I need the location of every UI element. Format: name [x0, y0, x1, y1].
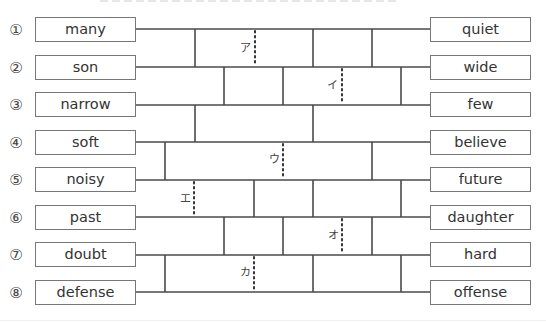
left-word-box: many: [35, 17, 136, 42]
blank-label-e: エ: [180, 193, 191, 205]
left-word-box: noisy: [35, 167, 136, 192]
item-number: ④: [4, 131, 28, 155]
blank-label-ka: カ: [240, 267, 251, 279]
left-word-box: son: [35, 55, 136, 80]
blank-rungs: [194, 31, 342, 291]
left-word-box: defense: [35, 280, 136, 305]
right-word-box: hard: [430, 242, 531, 267]
item-number: ①: [4, 18, 28, 42]
blank-label-u: ウ: [269, 154, 280, 166]
item-number: ⑤: [4, 168, 28, 192]
right-word-box: quiet: [430, 17, 531, 42]
item-number: ⑧: [4, 281, 28, 305]
right-word-box: offense: [430, 280, 531, 305]
item-number: ②: [4, 56, 28, 80]
left-word-box: narrow: [35, 92, 136, 117]
blank-label-a: ア: [240, 43, 251, 55]
left-word-box: past: [35, 205, 136, 230]
blank-label-i: イ: [327, 80, 338, 92]
divider: [0, 320, 546, 321]
left-word-box: doubt: [35, 242, 136, 267]
item-number: ③: [4, 93, 28, 117]
right-word-box: wide: [430, 55, 531, 80]
item-number: ⑥: [4, 206, 28, 230]
left-word-box: soft: [35, 130, 136, 155]
right-word-box: few: [430, 92, 531, 117]
blank-label-o: オ: [328, 230, 339, 242]
right-word-box: future: [430, 167, 531, 192]
right-word-box: daughter: [430, 205, 531, 230]
item-number: ⑦: [4, 243, 28, 267]
right-word-box: believe: [430, 130, 531, 155]
